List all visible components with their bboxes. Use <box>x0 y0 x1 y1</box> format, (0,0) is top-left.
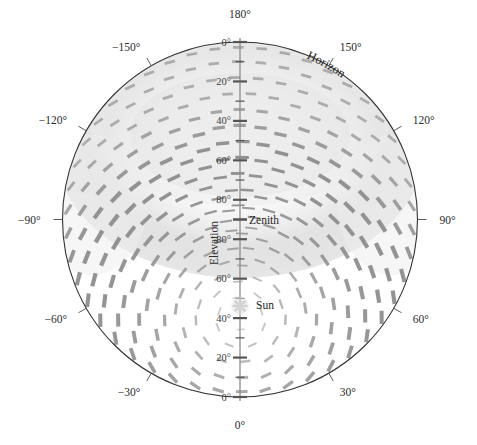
sun-label: Sun <box>256 299 274 311</box>
azimuth-tick-label: 90° <box>440 214 457 226</box>
elevation-tick-label: 40° <box>216 313 231 324</box>
polar-sky-plot-figure: Horizon Zenith Sun Elevation 0°20°40°60°… <box>0 0 477 445</box>
azimuth-tick-label: −60° <box>45 313 68 325</box>
elevation-tick-label: 0° <box>222 392 231 403</box>
azimuth-tick-label: −30° <box>118 386 141 398</box>
azimuth-tick-label: 0° <box>235 419 246 431</box>
elevation-tick-label: 0° <box>222 37 231 48</box>
elevation-tick-label: 60° <box>216 273 231 284</box>
azimuth-tick-label: −150° <box>112 41 141 53</box>
azimuth-tick-label: −120° <box>39 114 68 126</box>
elevation-tick-label: 60° <box>216 155 231 166</box>
azimuth-tick-label: 30° <box>340 386 357 398</box>
azimuth-tick-label: 60° <box>413 313 430 325</box>
elevation-tick-label: 20° <box>216 352 231 363</box>
azimuth-tick-label: −90° <box>18 214 41 226</box>
elevation-tick-label: 20° <box>216 76 231 87</box>
elevation-tick-label: 80° <box>216 194 231 205</box>
azimuth-tick-label: 150° <box>340 41 362 53</box>
azimuth-tick-label: 180° <box>229 8 251 20</box>
azimuth-tick-label: 120° <box>413 114 435 126</box>
sky-polarization-svg: Horizon Zenith Sun Elevation 0°20°40°60°… <box>0 0 477 445</box>
sun-marker <box>229 295 251 317</box>
elevation-tick-label: 40° <box>216 115 231 126</box>
zenith-label: Zenith <box>249 214 279 226</box>
elevation-tick-label: 80° <box>216 234 231 245</box>
